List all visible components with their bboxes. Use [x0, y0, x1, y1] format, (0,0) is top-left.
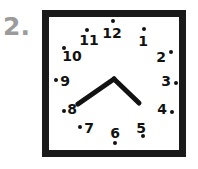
clock-numeral: 1	[138, 34, 148, 48]
tick-dot	[142, 27, 146, 31]
clock-numeral: 8	[67, 102, 77, 116]
tick-dot	[169, 50, 173, 54]
clock-numeral: 2	[156, 50, 166, 64]
clock-numeral: 7	[84, 121, 94, 135]
clock-numeral: 3	[161, 74, 171, 88]
tick-dot	[111, 19, 115, 23]
question-number-label: 2.	[3, 14, 30, 39]
clock-numeral: 4	[157, 102, 167, 116]
tick-dot	[170, 110, 174, 114]
clock-numeral: 12	[102, 26, 121, 40]
clock-numeral: 11	[79, 33, 98, 47]
clock-numeral: 5	[136, 121, 146, 135]
tick-dot	[54, 78, 58, 82]
clock-numeral: 6	[110, 126, 120, 140]
tick-dot	[174, 81, 178, 85]
tick-dot	[113, 141, 117, 145]
clock-numeral: 9	[60, 74, 70, 88]
tick-dot	[62, 109, 66, 113]
clock-illustration: 2. 121234567891011	[0, 0, 198, 169]
tick-dot	[78, 125, 82, 129]
clock-numeral: 10	[62, 49, 81, 63]
